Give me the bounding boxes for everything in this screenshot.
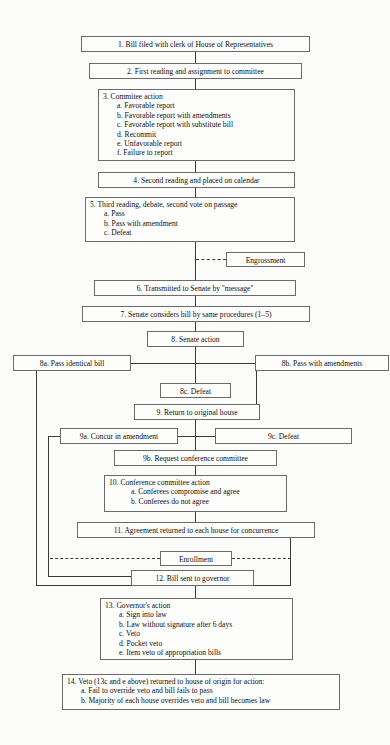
connector-6-to-7 <box>195 296 196 306</box>
node-8b-label: 8b. Pass with amendments <box>256 356 388 371</box>
node-11-agreement-returned[interactable]: 11. Agreement returned to each house for… <box>77 522 315 538</box>
node-5-third-reading[interactable]: 5. Third reading, debate, second vote on… <box>85 197 295 242</box>
node-3-item-e: e. Unfavorable report <box>103 139 290 148</box>
connector-11-right-down <box>290 538 291 586</box>
node-engrossment-label: Engrossment <box>227 253 304 268</box>
connector-enrollment-dashed-right <box>232 558 291 559</box>
connector-8-to-8a <box>131 363 195 364</box>
node-7-senate-considers[interactable]: 7. Senate considers bill by same procedu… <box>82 306 310 322</box>
node-12-label: 12. Bill sent to governor <box>132 571 253 586</box>
node-13-item-a: a. Sign into law <box>105 610 288 619</box>
connector-7-to-8 <box>195 322 196 331</box>
node-enrollment[interactable]: Enrollment <box>160 551 232 566</box>
node-3-item-f: f. Failure to report <box>103 148 290 157</box>
node-1-bill-filed[interactable]: 1. Bill filed with clerk of House of Rep… <box>81 36 310 52</box>
node-9b-label: 9b. Request conference committee <box>115 451 276 466</box>
node-12-bill-sent-to-governor[interactable]: 12. Bill sent to governor <box>131 570 254 586</box>
node-engrossment[interactable]: Engrossment <box>226 252 305 267</box>
node-13-governors-action[interactable]: 13. Governor's action a. Sign into law b… <box>100 598 293 660</box>
node-6-label: 6. Transmitted to Senate by ''message'' <box>95 281 295 296</box>
connector-12-to-13 <box>195 586 196 598</box>
node-3-item-c: c. Favorable report with substitute bill <box>103 120 290 129</box>
node-10-conference-committee-action[interactable]: 10. Conference committee action a. Confe… <box>104 475 287 512</box>
connector-3-to-4 <box>195 161 196 172</box>
node-4-label: 4. Second reading and placed on calendar <box>99 173 294 188</box>
node-5-title: 5. Third reading, debate, second vote on… <box>90 200 290 209</box>
node-8c-defeat[interactable]: 8c. Defeat <box>160 383 231 398</box>
node-9c-label: 9c. Defeat <box>216 429 351 444</box>
node-11-label: 11. Agreement returned to each house for… <box>78 523 314 538</box>
node-8-senate-action[interactable]: 8. Senate action <box>147 331 244 347</box>
connector-enrollment-dashed-left <box>50 558 160 559</box>
node-5-item-a: a. Pass <box>90 209 290 218</box>
node-6-transmitted-to-senate[interactable]: 6. Transmitted to Senate by ''message'' <box>94 280 296 296</box>
node-7-label: 7. Senate considers bill by same procedu… <box>83 307 309 322</box>
node-3-item-b: b. Favorable report with amendments <box>103 111 290 120</box>
connector-9a-down <box>48 436 49 577</box>
node-4-second-reading[interactable]: 4. Second reading and placed on calendar <box>98 172 295 188</box>
flowchart-canvas: 1. Bill filed with clerk of House of Rep… <box>0 0 390 745</box>
connector-2-to-3 <box>195 79 196 89</box>
node-13-item-c: c. Veto <box>105 629 288 638</box>
node-8-label: 8. Senate action <box>148 332 243 347</box>
node-8b-pass-with-amendments[interactable]: 8b. Pass with amendments <box>255 355 389 371</box>
node-8c-label: 8c. Defeat <box>161 384 230 399</box>
node-14-veto-returned[interactable]: 14. Veto (13c and e above) returned to h… <box>62 674 340 710</box>
node-3-item-a: a. Favorable report <box>103 101 290 110</box>
node-9a-label: 9a. Concur in amendment <box>61 429 177 444</box>
connector-9-to-9c <box>195 436 215 437</box>
node-5-item-c: c. Defeat <box>90 228 290 237</box>
node-enrollment-label: Enrollment <box>161 552 231 567</box>
node-9-label: 9. Return to original house <box>135 405 259 420</box>
node-3-item-d: d. Recommit <box>103 130 290 139</box>
connector-8a-to-12 <box>36 585 132 586</box>
node-9c-defeat[interactable]: 9c. Defeat <box>215 428 352 444</box>
node-14-item-a: a. Fail to override veto and bill fails … <box>67 686 335 695</box>
connector-1-to-2 <box>195 52 196 63</box>
node-13-item-e: e. Item veto of appropriation bills <box>105 648 288 657</box>
node-10-item-a: a. Conferees compromise and agree <box>109 487 282 496</box>
connector-8b-down <box>256 371 257 404</box>
connector-9-to-9a <box>178 436 196 437</box>
connector-9b-to-10 <box>195 466 196 475</box>
node-2-first-reading[interactable]: 2. First reading and assignment to commi… <box>89 63 302 79</box>
node-8a-pass-identical-bill[interactable]: 8a. Pass identical bill <box>13 355 131 371</box>
connector-11-right-to-12 <box>254 585 291 586</box>
connector-9a-to-12 <box>48 576 132 577</box>
node-2-label: 2. First reading and assignment to commi… <box>90 64 301 79</box>
connector-10-to-11 <box>195 512 196 522</box>
node-13-item-b: b. Law without signature after 6 days <box>105 620 288 629</box>
node-14-title: 14. Veto (13c and e above) returned to h… <box>67 677 335 686</box>
connector-13-to-14 <box>195 660 196 674</box>
node-3-title: 3. Commitee action <box>103 92 290 101</box>
node-9-return-to-original-house[interactable]: 9. Return to original house <box>134 404 260 420</box>
node-10-title: 10. Conference committee action <box>109 478 282 487</box>
node-5-item-b: b. Pass with amendment <box>90 219 290 228</box>
node-9a-concur-in-amendment[interactable]: 9a. Concur in amendment <box>60 428 178 444</box>
node-10-item-b: b. Conferees do not agree <box>109 497 282 506</box>
node-3-committee-action[interactable]: 3. Commitee action a. Favorable report b… <box>98 89 295 161</box>
connector-8a-down <box>36 371 37 586</box>
node-1-label: 1. Bill filed with clerk of House of Rep… <box>82 37 309 52</box>
connector-8-to-8b <box>195 363 255 364</box>
connector-5-to-6 <box>195 242 196 280</box>
connector-4-to-5 <box>195 188 196 197</box>
node-13-title: 13. Governor's action <box>105 601 288 610</box>
node-14-item-b: b. Majority of each house overrides veto… <box>67 696 335 705</box>
node-8a-label: 8a. Pass identical bill <box>14 356 130 371</box>
connector-engrossment-dashed <box>196 259 226 260</box>
node-13-item-d: d. Pocket veto <box>105 639 288 648</box>
node-9b-request-conference-committee[interactable]: 9b. Request conference committee <box>114 450 277 466</box>
